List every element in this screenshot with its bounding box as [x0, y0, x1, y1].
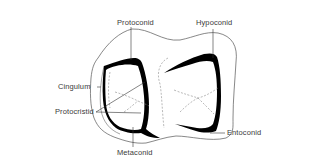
label-metaconid: Metaconid	[117, 149, 153, 157]
label-protoconid: Protoconid	[117, 19, 154, 27]
label-hypoconid: Hypoconid	[196, 19, 232, 27]
label-cingulum: Cingulum	[58, 83, 90, 91]
dashed-crests	[109, 58, 219, 128]
label-entoconid: Entoconid	[227, 129, 261, 137]
label-protocristid: Protocristid	[55, 108, 94, 116]
trigonid-crest	[103, 58, 160, 138]
talonid-crest	[164, 53, 221, 132]
